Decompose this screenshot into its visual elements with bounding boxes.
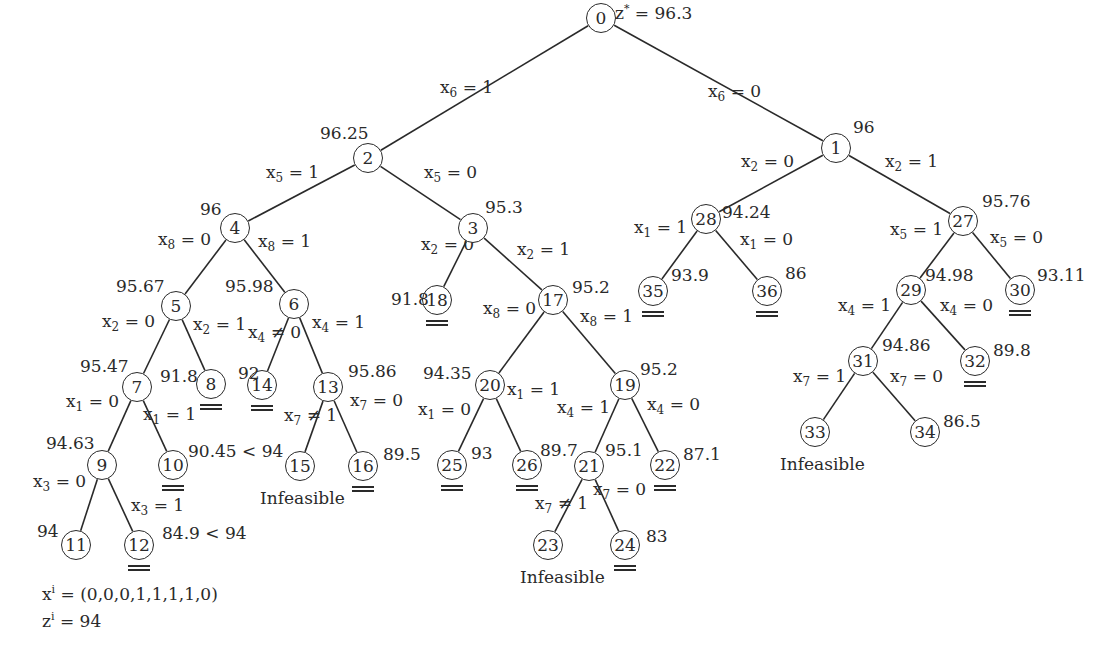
node-bound-5: 95.67 <box>116 277 165 295</box>
tree-node-5: 5 <box>161 291 191 321</box>
fathomed-icon <box>426 320 448 326</box>
branch-label: x5 = 1 <box>266 163 319 181</box>
branch-label: x4 ≠ 0 <box>248 323 301 341</box>
node-bound-29: 94.98 <box>925 266 974 284</box>
tree-node-11: 11 <box>61 530 91 560</box>
node-bound-35: 93.9 <box>671 266 709 284</box>
node-bound-32: 89.8 <box>993 341 1031 359</box>
infeasible-label-15: Infeasible <box>260 489 345 507</box>
tree-node-32: 32 <box>960 346 990 376</box>
branch-label: x7 = 0 <box>890 367 943 385</box>
tree-node-24: 24 <box>610 530 640 560</box>
tree-node-34: 34 <box>910 417 940 447</box>
incumbent-solution-z: zi = 94 <box>42 612 101 630</box>
tree-node-29: 29 <box>896 275 926 305</box>
node-bound-18: 91.8 <box>391 290 429 308</box>
node-bound-11: 94 <box>37 522 59 540</box>
tree-node-28: 28 <box>691 204 721 234</box>
tree-node-20: 20 <box>475 370 505 400</box>
branch-label: x3 = 0 <box>33 472 86 490</box>
incumbent-x-value: (0,0,0,1,1,1,1,0) <box>80 584 218 604</box>
branch-label: x5 = 0 <box>990 228 1043 246</box>
branch-label: x4 = 0 <box>940 296 993 314</box>
node-bound-24: 83 <box>646 527 668 545</box>
node-bound-34: 86.5 <box>943 412 981 430</box>
tree-node-36: 36 <box>752 276 782 306</box>
branch-label: x1 = 0 <box>740 230 793 248</box>
branch-label: x2 = 1 <box>517 240 570 258</box>
tree-node-13: 13 <box>313 372 343 402</box>
tree-node-17: 17 <box>538 285 568 315</box>
tree-node-15: 15 <box>285 451 315 481</box>
node-bound-6: 95.98 <box>225 277 274 295</box>
fathomed-icon <box>642 311 664 317</box>
branch-label: x5 = 1 <box>890 220 943 238</box>
node-bound-7: 95.47 <box>80 357 129 375</box>
infeasible-label-33: Infeasible <box>780 455 865 473</box>
node-bound-19: 95.2 <box>640 360 678 378</box>
fathomed-icon <box>614 565 636 571</box>
tree-node-3: 3 <box>458 213 488 243</box>
tree-node-33: 33 <box>800 417 830 447</box>
tree-node-23: 23 <box>533 530 563 560</box>
branch-label: x3 = 1 <box>131 496 184 514</box>
incumbent-z-symbol: z <box>42 611 51 631</box>
branch-label: x1 = 1 <box>507 380 560 398</box>
node-bound-0: z* = 96.3 <box>615 4 692 22</box>
branch-and-bound-tree-edges <box>0 0 1119 656</box>
branch-label: x6 = 1 <box>440 78 493 96</box>
tree-node-27: 27 <box>948 206 978 236</box>
fathomed-icon <box>200 404 222 410</box>
branch-label: x2 = 0 <box>102 312 155 330</box>
fathomed-icon <box>128 565 150 571</box>
tree-node-1: 1 <box>821 133 851 163</box>
branch-label: x1 = 0 <box>66 392 119 410</box>
tree-node-8: 8 <box>196 369 226 399</box>
edge-20-26 <box>496 399 520 452</box>
node-bound-21: 95.1 <box>605 441 643 459</box>
node-bound-8: 91.8 <box>160 367 198 385</box>
tree-node-22: 22 <box>650 450 680 480</box>
infeasible-label-23: Infeasible <box>520 568 605 586</box>
edge-9-12 <box>108 479 132 532</box>
branch-label: x1 = 0 <box>418 400 471 418</box>
node-bound-9: 94.63 <box>46 434 95 452</box>
branch-label: x1 = 1 <box>143 405 196 423</box>
branch-label: x2 = 1 <box>885 152 938 170</box>
node-bound-31: 94.86 <box>882 336 931 354</box>
branch-label: x6 = 0 <box>708 82 761 100</box>
branch-label: x7 ≠ 1 <box>284 406 337 424</box>
incumbent-superscript: i <box>51 610 55 623</box>
edge-17-20 <box>499 312 544 373</box>
tree-node-7: 7 <box>122 372 152 402</box>
tree-node-25: 25 <box>437 450 467 480</box>
node-bound-2: 96.25 <box>320 124 369 142</box>
tree-node-30: 30 <box>1005 275 1035 305</box>
tree-node-4: 4 <box>220 213 250 243</box>
node-bound-26: 89.7 <box>540 441 578 459</box>
fathomed-icon <box>756 311 778 317</box>
branch-label: x2 = 0 <box>741 152 794 170</box>
fathomed-icon <box>441 485 463 491</box>
fathomed-icon <box>162 485 184 491</box>
branch-label: x7 = 0 <box>350 391 403 409</box>
branch-label: x8 = 1 <box>580 307 633 325</box>
fathomed-icon <box>964 381 986 387</box>
node-bound-30: 93.11 <box>1037 266 1086 284</box>
incumbent-z-value: 94 <box>80 611 102 631</box>
tree-node-19: 19 <box>610 370 640 400</box>
node-bound-20: 94.35 <box>423 364 472 382</box>
node-bound-27: 95.76 <box>982 192 1031 210</box>
fathomed-icon <box>352 486 374 492</box>
branch-label: x7 = 0 <box>593 480 646 498</box>
tree-node-26: 26 <box>512 450 542 480</box>
tree-node-2: 2 <box>353 143 383 173</box>
branch-label: x8 = 0 <box>483 299 536 317</box>
fathomed-icon <box>251 405 273 411</box>
node-bound-25: 93 <box>471 444 493 462</box>
node-bound-4: 96 <box>200 200 222 218</box>
branch-label: x5 = 0 <box>424 163 477 181</box>
tree-node-9: 9 <box>87 450 117 480</box>
incumbent-solution-x: xi = (0,0,0,1,1,1,1,0) <box>42 585 218 603</box>
branch-label: x8 = 0 <box>158 230 211 248</box>
